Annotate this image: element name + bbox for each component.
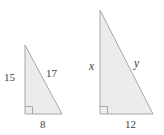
right-triangle-vertical-leg-label: x: [89, 61, 94, 73]
geometry-figure: [0, 0, 164, 135]
left-triangle-base-label: 8: [40, 119, 46, 130]
left-triangle-shape: [25, 45, 62, 114]
left-triangle-vertical-leg-label: 15: [4, 72, 15, 83]
right-triangle-hypotenuse-label: y: [134, 58, 139, 70]
right-triangle-base-label: 12: [125, 119, 136, 130]
left-triangle-hypotenuse-label: 17: [46, 68, 57, 79]
right-triangle-shape: [100, 10, 153, 114]
